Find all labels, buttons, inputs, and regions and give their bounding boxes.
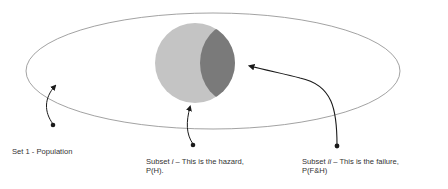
failure-probability: P(F&H) — [302, 166, 327, 175]
failure-label-suffix: – This is the failure, — [331, 157, 399, 166]
hazard-label-suffix: – This is the hazard, — [173, 157, 243, 166]
hazard-label: Subset i – This is the hazard, P(H). — [146, 157, 244, 175]
failure-region — [200, 23, 268, 103]
population-arrow — [46, 86, 55, 127]
failure-label: Subset ii – This is the failure, P(F&H) — [302, 157, 399, 175]
failure-arrow — [250, 66, 339, 148]
hazard-label-prefix: Subset — [146, 157, 172, 166]
population-label-text: Set 1 - Population — [12, 147, 72, 156]
hazard-arrow — [187, 107, 195, 147]
hazard-probability: P(H). — [146, 166, 164, 175]
failure-label-prefix: Subset — [302, 157, 328, 166]
population-label: Set 1 - Population — [12, 147, 72, 156]
